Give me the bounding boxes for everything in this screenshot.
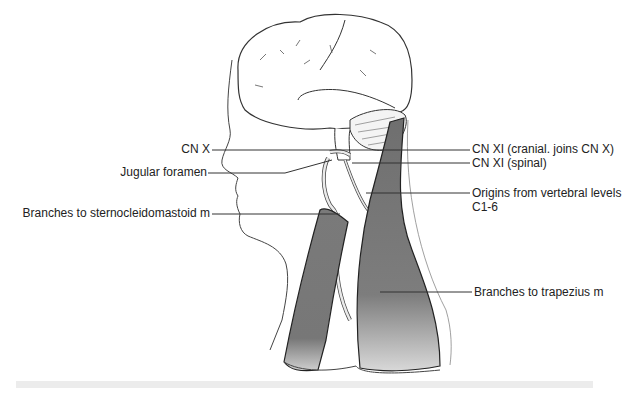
label-cn-x: CN X: [150, 143, 210, 156]
label-cn-xi-spinal: CN XI (spinal): [472, 157, 547, 170]
caption-band: [16, 381, 593, 388]
label-branches-scm: Branches to sternocleidomastoid m: [0, 207, 210, 220]
trapezius-muscle: [357, 118, 440, 371]
anatomy-figure: CN X Jugular foramen Branches to sternoc…: [0, 0, 635, 397]
label-origins-line1: Origins from vertebral levels: [472, 187, 621, 200]
label-jugular-foramen: Jugular foramen: [80, 166, 207, 179]
label-origins-line2: C1-6: [472, 201, 498, 214]
label-cn-xi-cranial: CN XI (cranial. joins CN X): [472, 143, 614, 156]
label-branches-trapezius: Branches to trapezius m: [474, 286, 603, 299]
